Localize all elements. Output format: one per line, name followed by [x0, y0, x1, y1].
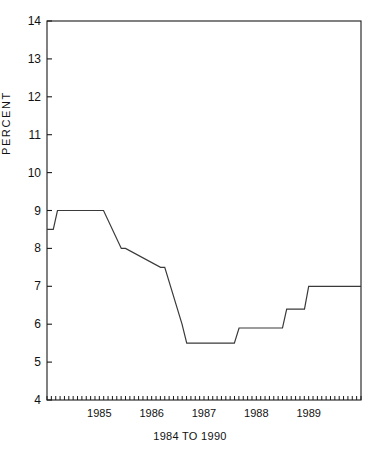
plot-area	[0, 0, 380, 465]
chart-container: PERCENT 4567891011121314 198519861987198…	[0, 0, 380, 465]
x-axis-title: 1984 TO 1990	[0, 430, 380, 442]
y-axis-ticks	[47, 21, 52, 400]
x-axis-ticks	[47, 396, 361, 400]
data-series-line	[47, 211, 361, 344]
